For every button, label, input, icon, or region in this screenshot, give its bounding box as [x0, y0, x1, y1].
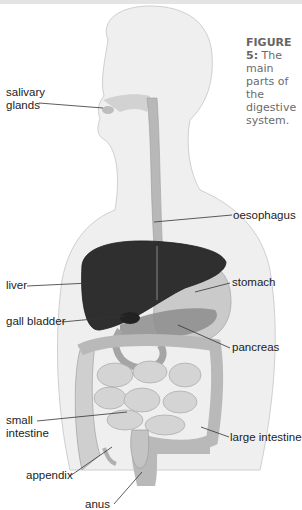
figure-caption: FIGURE 5: The main parts of the digestiv…: [246, 36, 302, 127]
label-stomach: stomach: [232, 276, 275, 289]
label-salivary-line2: glands: [6, 99, 45, 112]
label-appendix: appendix: [26, 469, 73, 482]
label-large-intestine: large intestine: [230, 431, 302, 444]
label-gall-bladder: gall bladder: [6, 315, 65, 328]
label-pancreas: pancreas: [232, 341, 279, 354]
salivary-gland-shape: [102, 106, 114, 114]
label-salivary-glands: salivary glands: [6, 86, 45, 112]
small-intestine-shape: [94, 361, 201, 435]
label-oesophagus: oesophagus: [233, 209, 296, 222]
label-small-intestine: small intestine: [6, 414, 49, 440]
label-salivary-line1: salivary: [6, 86, 45, 99]
label-anus: anus: [85, 498, 110, 510]
label-liver: liver: [6, 279, 27, 292]
label-small-line2: intestine: [6, 427, 49, 440]
label-small-line1: small: [6, 414, 49, 427]
